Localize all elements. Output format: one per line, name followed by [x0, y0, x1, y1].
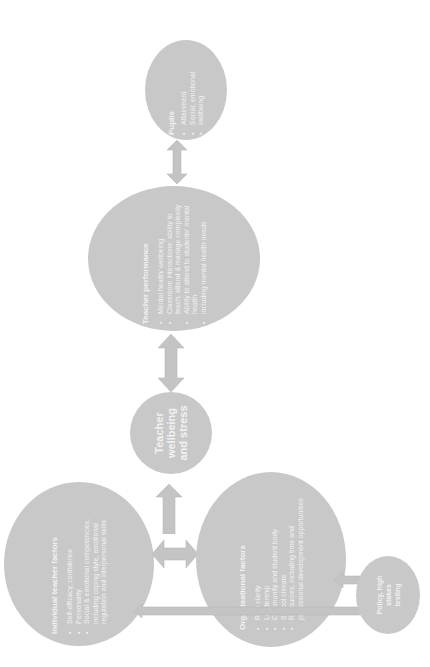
node-teacher-performance: Teacher performance Mental health/ wellb… [88, 186, 260, 331]
node-title: stakes [384, 563, 393, 627]
list-item: including mental health needs [199, 194, 208, 324]
list-item: Classroom interactions: ability to teach… [165, 194, 182, 324]
node-teacher-wellbeing: Teacher wellbeing and stress [130, 392, 212, 474]
node-title: testing [393, 563, 402, 627]
double-arrow-vertical [158, 334, 184, 392]
list-item: Self-efficacy, confidence [66, 494, 75, 634]
node-policy: Policy, high stakes testing [356, 556, 420, 634]
node-individual-factors: Individual teacher factors Self-efficacy… [4, 482, 154, 646]
node-title: Teacher [153, 393, 165, 473]
list-item: Social & emotional competencies, includi… [83, 494, 109, 634]
node-title: wellbeing [165, 393, 177, 473]
node-organisational-factors: Organisational factors Role clarity Lead… [196, 472, 346, 647]
node-title: Individual teacher factors [50, 494, 60, 634]
double-arrow-horizontal [152, 540, 198, 568]
arrow-up [156, 484, 182, 534]
list-item: Ability to attend to students' mental he… [182, 194, 199, 324]
node-title: Teacher performance [141, 194, 151, 324]
list-item: Social, emotional [188, 45, 197, 135]
node-title: and stress [177, 393, 189, 473]
node-pupils: Pupils Attainment Social, emotional well… [145, 40, 227, 140]
node-title: Policy, high [375, 563, 384, 627]
node-title: Pupils [167, 45, 177, 135]
double-arrow-vertical [167, 140, 187, 184]
list-item: wellbeing [197, 45, 206, 135]
arrow-left-long [134, 604, 366, 618]
list-item: Personality [74, 494, 83, 634]
list-item: Attainment [180, 45, 189, 135]
list-item: Mental health/ wellbeing [157, 194, 166, 324]
